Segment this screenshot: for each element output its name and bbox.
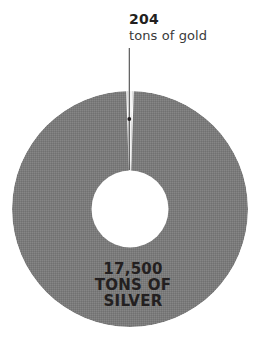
- silver-center-label: 17,500 TONS OF SILVER: [0, 261, 266, 310]
- leader-dot-icon: [127, 117, 131, 121]
- infographic-root: 204 tons of gold 17,500 TONS OF SILVER: [0, 0, 266, 340]
- gold-unit-label: tons of gold: [129, 29, 207, 42]
- gold-callout: 204 tons of gold: [129, 12, 207, 42]
- gold-value: 204: [129, 12, 207, 26]
- silver-value: 17,500: [0, 261, 266, 277]
- silver-unit-label-line2: SILVER: [0, 293, 266, 309]
- silver-unit-label-line1: TONS OF: [0, 277, 266, 293]
